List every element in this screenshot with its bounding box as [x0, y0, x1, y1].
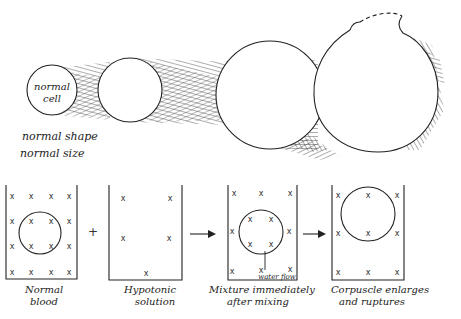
svg-text:x: x [10, 217, 15, 226]
label-mixture: Mixture immediately [208, 284, 315, 295]
beaker-normal-blood: x x x x x x x x x x x x x x x x [6, 185, 77, 279]
beaker-mixture: x x x x x x x x x x x x water flow [228, 185, 297, 281]
svg-text:x: x [10, 192, 15, 201]
svg-text:x: x [29, 192, 34, 201]
normal-cell: normal cell [27, 65, 77, 115]
svg-text:x: x [168, 194, 173, 203]
plus-symbol: + [88, 225, 98, 239]
svg-text:x: x [259, 189, 264, 198]
beaker-hypotonic-solution: x x x x x [109, 185, 182, 280]
label-blood: blood [30, 296, 58, 307]
svg-text:x: x [49, 192, 54, 201]
svg-text:x: x [29, 242, 34, 251]
svg-text:x: x [395, 229, 400, 238]
svg-text:x: x [49, 268, 54, 277]
svg-text:x: x [366, 229, 371, 238]
svg-text:x: x [366, 191, 371, 200]
label-corpuscle-enlarges: Corpuscle enlarges [331, 284, 429, 295]
svg-text:x: x [49, 217, 54, 226]
svg-text:x: x [366, 268, 371, 277]
cell-label-line1: normal [34, 81, 70, 92]
svg-text:x: x [269, 240, 274, 249]
caption-normal-size: normal size [20, 147, 85, 160]
svg-text:x: x [248, 215, 253, 224]
svg-text:x: x [269, 215, 274, 224]
svg-text:x: x [336, 268, 341, 277]
svg-text:x: x [10, 242, 15, 251]
cell-label-line2: cell [43, 93, 61, 104]
svg-text:x: x [121, 234, 126, 243]
svg-text:x: x [336, 229, 341, 238]
label-and-ruptures: and ruptures [339, 296, 405, 307]
swelling-cell-1 [98, 58, 162, 122]
label-after-mixing: after mixing [227, 296, 289, 307]
svg-text:x: x [230, 267, 235, 276]
svg-text:x: x [395, 268, 400, 277]
svg-text:x: x [67, 268, 72, 277]
caption-normal-shape: normal shape [22, 130, 98, 143]
svg-text:x: x [10, 268, 15, 277]
svg-text:x: x [29, 268, 34, 277]
svg-text:x: x [230, 227, 235, 236]
svg-text:x: x [288, 189, 293, 198]
svg-text:x: x [121, 194, 126, 203]
svg-text:x: x [67, 217, 72, 226]
svg-text:x: x [336, 191, 341, 200]
svg-text:x: x [144, 269, 149, 278]
ruptured-cell [314, 13, 438, 152]
water-flow-label: water flow [258, 273, 296, 281]
hemolysis-diagram: normal cell normal shape normal size x x… [0, 0, 461, 319]
svg-text:x: x [49, 242, 54, 251]
beaker-ruptured: x x x x x x x x x [332, 185, 404, 280]
label-normal: Normal [24, 284, 63, 295]
svg-text:x: x [167, 234, 172, 243]
svg-text:x: x [67, 242, 72, 251]
label-hypotonic: Hypotonic [123, 284, 176, 295]
arrow-icon [303, 230, 326, 238]
label-solution: solution [135, 296, 175, 307]
swelling-cell-2 [216, 41, 324, 149]
svg-text:x: x [67, 192, 72, 201]
arrow-icon [190, 230, 216, 238]
svg-text:x: x [248, 240, 253, 249]
svg-text:x: x [29, 217, 34, 226]
svg-text:x: x [232, 189, 237, 198]
svg-text:x: x [287, 227, 292, 236]
svg-text:x: x [395, 191, 400, 200]
